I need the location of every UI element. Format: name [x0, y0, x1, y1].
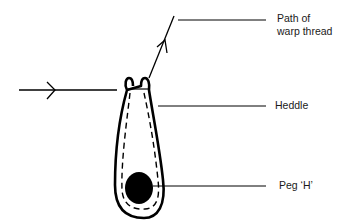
warp-thread-outgoing — [149, 16, 174, 78]
label-peg-h: Peg ‘H’ — [279, 179, 313, 192]
peg-h — [125, 172, 153, 204]
label-path-of-warp-thread: Path of warp thread — [277, 12, 332, 38]
label-heddle: Heddle — [275, 99, 308, 112]
warp-thread-incoming — [19, 82, 117, 99]
label-path-line1: Path of — [277, 12, 332, 25]
label-path-line2: warp thread — [277, 25, 332, 38]
